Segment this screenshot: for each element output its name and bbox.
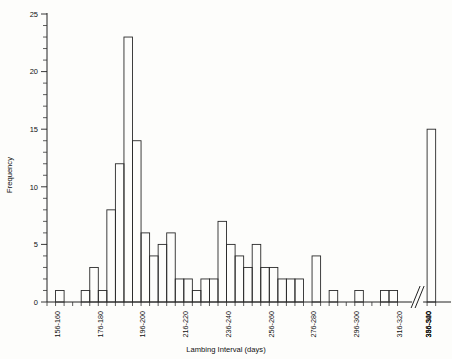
histogram-bar bbox=[227, 244, 236, 302]
histogram-bar bbox=[329, 290, 338, 302]
histogram-bar bbox=[90, 267, 99, 302]
histogram-bar bbox=[427, 129, 436, 302]
x-tick-label: 156-160 bbox=[53, 311, 62, 337]
histogram-bar bbox=[218, 221, 227, 302]
x-tick-label: 296-300 bbox=[352, 311, 361, 337]
histogram-bar bbox=[209, 279, 218, 302]
histogram-bar bbox=[235, 256, 244, 302]
x-tick-label: 316-320 bbox=[395, 311, 404, 337]
y-axis-title: Frequency bbox=[5, 157, 14, 193]
bar-series bbox=[56, 37, 436, 302]
y-axis: 0510152025 bbox=[30, 10, 47, 307]
histogram-bar bbox=[184, 279, 193, 302]
histogram-bar bbox=[175, 279, 184, 302]
histogram-bar bbox=[278, 279, 287, 302]
histogram-bar bbox=[295, 279, 304, 302]
histogram-chart: 0510152025 156-160176-180196-200216-2202… bbox=[0, 0, 452, 359]
chart-canvas: 0510152025 156-160176-180196-200216-2202… bbox=[0, 0, 452, 359]
x-tick-label: 176-180 bbox=[96, 311, 105, 337]
x-axis-title: Lambing Interval (days) bbox=[186, 345, 266, 354]
x-tick-labels: 156-160176-180196-200216-220236-240256-2… bbox=[53, 311, 434, 337]
histogram-bar bbox=[380, 290, 389, 302]
x-tick-label: 386-520 bbox=[424, 311, 433, 337]
histogram-bar bbox=[167, 233, 176, 302]
y-tick-label: 0 bbox=[34, 298, 38, 307]
x-tick-label: 216-220 bbox=[181, 311, 190, 337]
histogram-bar bbox=[269, 267, 278, 302]
histogram-bar bbox=[107, 210, 116, 302]
histogram-bar bbox=[192, 290, 201, 302]
histogram-bar bbox=[115, 164, 124, 302]
histogram-bar bbox=[261, 267, 270, 302]
x-tick-label: 276-280 bbox=[309, 311, 318, 337]
histogram-bar bbox=[141, 233, 150, 302]
y-tick-label: 20 bbox=[30, 67, 38, 76]
histogram-bar bbox=[252, 244, 261, 302]
histogram-bar bbox=[150, 256, 159, 302]
x-tick-label: 196-200 bbox=[138, 311, 147, 337]
histogram-bar bbox=[81, 290, 90, 302]
y-tick-label: 25 bbox=[30, 10, 38, 19]
histogram-bar bbox=[201, 279, 210, 302]
histogram-bar bbox=[124, 37, 133, 302]
x-tick-label: 256-260 bbox=[267, 311, 276, 337]
histogram-bar bbox=[133, 141, 142, 302]
histogram-bar bbox=[98, 290, 107, 302]
x-tick-label: 236-240 bbox=[224, 311, 233, 337]
histogram-bar bbox=[312, 256, 321, 302]
y-tick-label: 10 bbox=[30, 183, 38, 192]
histogram-bar bbox=[286, 279, 295, 302]
y-tick-label: 15 bbox=[30, 125, 38, 134]
histogram-bar bbox=[56, 290, 65, 302]
y-tick-label: 5 bbox=[34, 240, 38, 249]
x-axis bbox=[47, 286, 451, 308]
histogram-bar bbox=[355, 290, 364, 302]
histogram-bar bbox=[158, 244, 167, 302]
histogram-bar bbox=[389, 290, 398, 302]
histogram-bar bbox=[244, 267, 253, 302]
